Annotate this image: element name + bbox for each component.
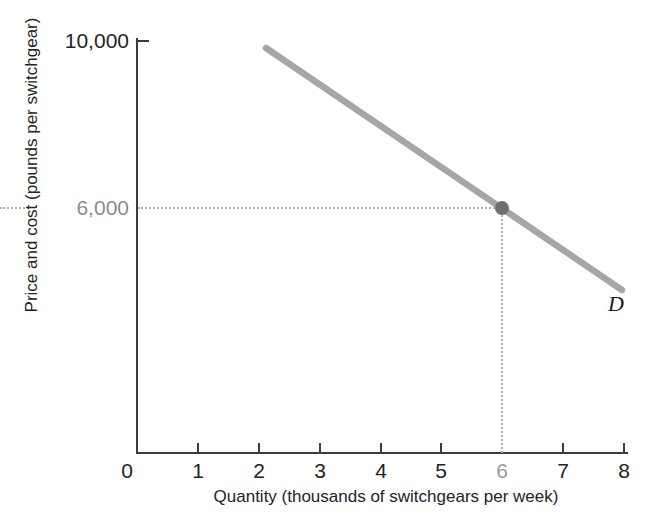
demand-curve-chart: 10,000 6,000 0 1 2 3 4 5 6 7 8 D Price a… — [0, 0, 659, 519]
curve-label-d: D — [608, 291, 624, 317]
x-axis-title: Quantity (thousands of switchgears per w… — [136, 487, 636, 507]
y-axis-title: Price and cost (pounds per switchgear) — [22, 0, 42, 330]
demand-curve-svg — [0, 0, 659, 519]
equilibrium-point-marker — [495, 201, 509, 215]
demand-curve-line — [266, 48, 622, 290]
